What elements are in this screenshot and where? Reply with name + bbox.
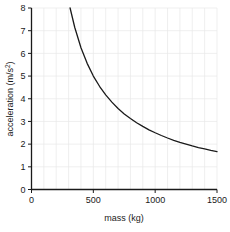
y-axis-tick-labels: 012345678 [20,3,25,195]
chart-svg: 050010001500 012345678 mass (kg) acceler… [0,0,230,232]
y-tick-label: 6 [20,49,25,59]
figure-background [0,0,230,232]
y-tick-label: 3 [20,117,25,127]
y-tick-label: 1 [20,162,25,172]
y-axis-title: acceleration (m/s2) [4,61,15,136]
y-tick-label: 4 [20,94,25,104]
x-tick-label: 1000 [145,195,165,205]
x-tick-label: 0 [29,195,34,205]
y-tick-label: 5 [20,71,25,81]
y-tick-label: 7 [20,26,25,36]
y-tick-label: 0 [20,185,25,195]
chart-figure: 050010001500 012345678 mass (kg) acceler… [0,0,230,232]
y-tick-label: 2 [20,139,25,149]
x-tick-label: 1500 [207,195,227,205]
x-tick-label: 500 [86,195,101,205]
y-tick-label: 8 [20,3,25,13]
x-axis-title: mass (kg) [104,213,144,223]
y-axis-title-group: acceleration (m/s2) [4,61,15,136]
